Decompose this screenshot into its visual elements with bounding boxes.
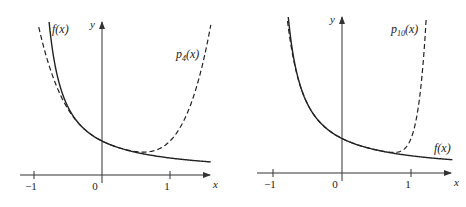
f-label: f(x) [52, 22, 69, 36]
x-tick-label: 0 [92, 180, 98, 192]
taylor-polynomial-curve [39, 25, 211, 152]
x-axis-label: x [453, 176, 459, 188]
f-curve [287, 9, 452, 160]
left-plot-p4: −101xyf(x)p4(x) [20, 5, 218, 192]
x-tick-label: −1 [264, 178, 276, 190]
x-tick-label: 0 [332, 178, 338, 190]
y-axis-label: y [329, 13, 335, 25]
x-tick-label: −1 [25, 180, 37, 192]
x-tick-label: 1 [405, 178, 411, 190]
y-axis-label: y [89, 18, 95, 30]
f-curve [48, 5, 211, 162]
f-label: f(x) [434, 141, 451, 155]
x-axis-label: x [212, 178, 218, 190]
p-label: p4(x) [175, 47, 199, 63]
p-label: p10(x) [390, 22, 418, 38]
x-tick-label: 1 [164, 180, 170, 192]
right-plot-p10: −101xyf(x)p10(x) [257, 0, 459, 190]
taylor-approximation-figure: −101xyf(x)p4(x) −101xyf(x)p10(x) [0, 0, 466, 207]
